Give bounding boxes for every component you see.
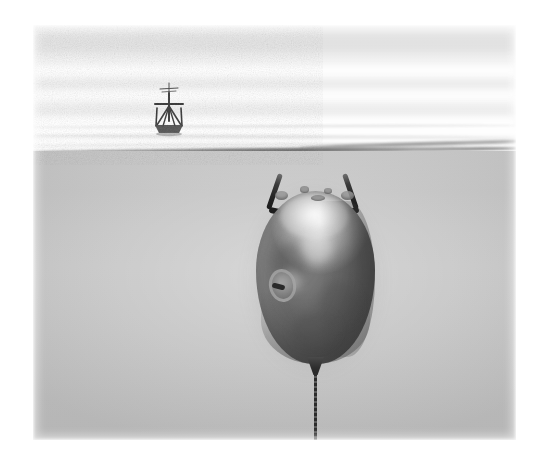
illustration-canvas: Moored naval contact mine beneath the se… xyxy=(0,0,547,462)
ship-silhouette xyxy=(150,81,188,143)
sky-tone-band xyxy=(33,31,516,53)
sky-tone-band xyxy=(33,79,516,89)
sky-tone-band xyxy=(33,103,516,115)
sea-mine xyxy=(245,165,385,440)
drawing-plate xyxy=(33,25,516,440)
artwork-title: Moored naval contact mine beneath the se… xyxy=(0,0,1,1)
artwork-metadata: Moored naval contact mine beneath the se… xyxy=(0,0,1,1)
mine-texture-blotch xyxy=(292,312,337,347)
mine-horn-collar-left xyxy=(275,191,288,200)
mooring-cable xyxy=(314,373,317,440)
mine-crown-fitting xyxy=(311,195,325,201)
mine-crown-fitting xyxy=(324,188,332,194)
mine-horn-collar-right xyxy=(341,191,354,200)
ship-icon xyxy=(150,81,188,143)
cloud-band xyxy=(33,91,516,100)
cloud-band xyxy=(33,65,516,78)
mine-crown-fitting xyxy=(300,186,309,193)
mine-texture-highlight xyxy=(301,233,332,264)
